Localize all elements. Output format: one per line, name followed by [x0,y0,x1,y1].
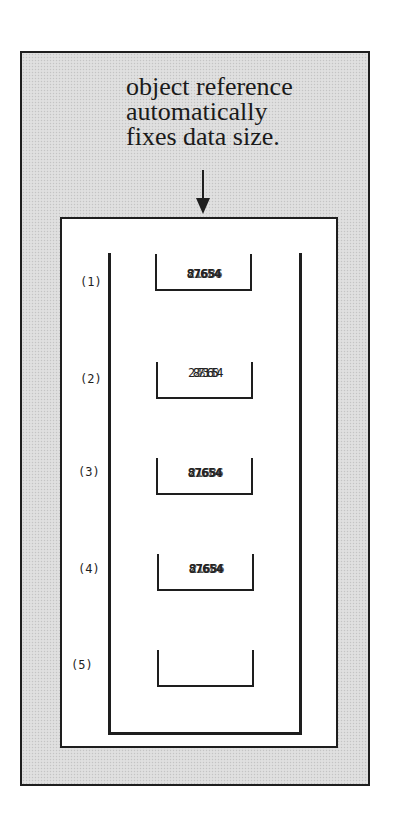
caption-line-1: object reference [126,74,356,99]
slot-label-5: (5) [71,658,93,672]
slot-value-3: 87654 21686 [158,465,251,480]
slot-label-3: (3) [78,465,100,479]
slot-1: 87654 21686 [155,254,252,291]
slot-value-1: 87654 21686 [157,266,250,281]
slot-5 [157,650,254,687]
caption: object reference automatically fixes dat… [126,74,356,149]
slot-label-4: (4) [78,562,100,576]
slot-3: 87654 21686 [156,458,253,495]
slot-label-2: (2) [80,372,102,386]
slot-value-2: 2873654 28130 [158,366,251,380]
slot-label-1: (1) [80,275,102,289]
slot-4: 87654 21686 [157,554,254,591]
slot-2: 2873654 28130 [156,362,253,399]
caption-line-3: fixes data size. [126,124,356,149]
arrow-down-icon [195,170,211,214]
caption-line-2: automatically [126,99,356,124]
slot-value-4: 87654 21686 [159,561,252,576]
